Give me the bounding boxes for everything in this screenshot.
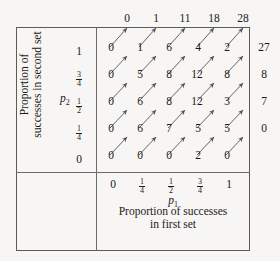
cell-r0-c4: 2 bbox=[216, 41, 238, 53]
row-total-0: 27 bbox=[252, 41, 276, 53]
column-total-1: 1 bbox=[144, 12, 168, 24]
cell-r1-c1: 5 bbox=[129, 68, 151, 80]
cell-r1-c3: 12 bbox=[186, 68, 208, 80]
cell-r1-c4: 8 bbox=[216, 68, 238, 80]
x-tick-0: 0 bbox=[100, 178, 126, 190]
row-total-1: 8 bbox=[252, 68, 276, 80]
cell-r2-c1: 6 bbox=[129, 95, 151, 107]
x-axis-caption: Proportion of successes in first set bbox=[98, 205, 248, 231]
y-tick-1-2: 12 bbox=[66, 98, 92, 114]
cell-r2-c4: 3 bbox=[216, 95, 238, 107]
x-tick-1-2: 12 bbox=[158, 178, 184, 194]
x-tick-1-4: 14 bbox=[129, 178, 155, 194]
y-tick-0: 0 bbox=[66, 153, 92, 165]
row-total-2: 7 bbox=[252, 95, 276, 107]
figure-canvas: Proportion of successes in second set p2… bbox=[0, 0, 280, 261]
cell-r2-c2: 8 bbox=[158, 95, 180, 107]
column-total-0: 0 bbox=[115, 12, 139, 24]
x-caption-line2: in first set bbox=[150, 218, 196, 230]
cell-r0-c3: 4 bbox=[187, 41, 209, 53]
cell-r4-c0: 0 bbox=[100, 149, 122, 161]
column-total-2: 11 bbox=[173, 12, 197, 24]
cell-r4-c4: 0 bbox=[216, 149, 238, 161]
cell-r1-c0: 0 bbox=[100, 68, 122, 80]
y-caption-line2: successes in second set bbox=[30, 19, 43, 151]
y-tick-1: 1 bbox=[66, 45, 92, 57]
cell-r3-c0: 0 bbox=[100, 122, 122, 134]
column-total-4: 28 bbox=[231, 12, 255, 24]
x-caption-line1: Proportion of successes bbox=[119, 205, 228, 217]
y-axis-caption: Proportion of successes in second set bbox=[18, 19, 43, 151]
row-total-3: 0 bbox=[252, 122, 276, 134]
cell-r4-c2: 0 bbox=[158, 149, 180, 161]
x-tick-3-4: 34 bbox=[187, 178, 213, 194]
cell-r4-c3: 2 bbox=[187, 149, 209, 161]
cell-r3-c1: 6 bbox=[129, 122, 151, 134]
cell-r3-c4: 5 bbox=[216, 122, 238, 134]
cell-r3-c3: 5 bbox=[187, 122, 209, 134]
column-total-3: 18 bbox=[202, 12, 226, 24]
cell-r3-c2: 7 bbox=[158, 122, 180, 134]
horizontal-divider bbox=[16, 172, 250, 173]
y-tick-3-4: 34 bbox=[66, 71, 92, 87]
cell-r2-c0: 0 bbox=[100, 95, 122, 107]
cell-r2-c3: 12 bbox=[186, 95, 208, 107]
cell-r1-c2: 8 bbox=[158, 68, 180, 80]
cell-r0-c1: 1 bbox=[129, 41, 151, 53]
y-tick-1-4: 14 bbox=[66, 125, 92, 141]
cell-r4-c1: 0 bbox=[129, 149, 151, 161]
cell-r0-c0: 0 bbox=[100, 41, 122, 53]
y-caption-line1: Proportion of bbox=[18, 19, 31, 151]
x-tick-1: 1 bbox=[216, 178, 242, 190]
cell-r0-c2: 6 bbox=[158, 41, 180, 53]
vertical-divider bbox=[96, 27, 97, 251]
